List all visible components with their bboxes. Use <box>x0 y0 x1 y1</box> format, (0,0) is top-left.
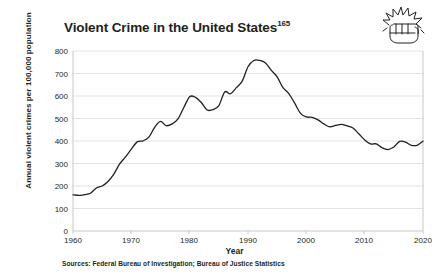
y-tick-label: 500 <box>55 115 69 124</box>
x-tick-label: 1960 <box>64 236 82 245</box>
y-tick-label: 400 <box>55 137 69 146</box>
y-axis-ticks: 800 700 600 500 400 300 200 100 0 <box>55 47 69 236</box>
violent-crime-line <box>73 60 423 196</box>
x-tick-label: 2010 <box>355 236 373 245</box>
chart-page: Violent Crime in the United States165 <box>0 0 437 276</box>
x-tick-label: 1990 <box>239 236 257 245</box>
y-tick-label: 300 <box>55 160 69 169</box>
source-note: Sources: Federal Bureau of Investigation… <box>62 260 285 267</box>
y-tick-label: 100 <box>55 205 69 214</box>
y-tick-label: 200 <box>55 182 69 191</box>
x-tick-label: 1970 <box>122 236 140 245</box>
chart-plot: 800 700 600 500 400 300 200 100 0 1960 1… <box>0 0 437 276</box>
y-tick-label: 700 <box>55 70 69 79</box>
x-axis-title: Year <box>0 246 437 256</box>
x-axis-tickmarks <box>73 231 423 234</box>
x-tick-label: 2000 <box>297 236 315 245</box>
x-tick-label: 2020 <box>414 236 432 245</box>
x-tick-label: 1980 <box>180 236 198 245</box>
y-tick-label: 0 <box>64 227 69 236</box>
y-tick-label: 600 <box>55 92 69 101</box>
gridlines <box>73 51 423 209</box>
x-axis-ticks: 1960 1970 1980 1990 2000 2010 2020 <box>64 236 432 245</box>
y-tick-label: 800 <box>55 47 69 56</box>
